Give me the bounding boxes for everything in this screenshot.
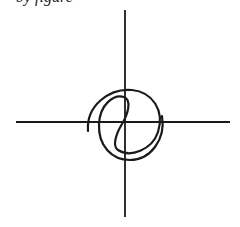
spiral-diagram (0, 0, 240, 227)
